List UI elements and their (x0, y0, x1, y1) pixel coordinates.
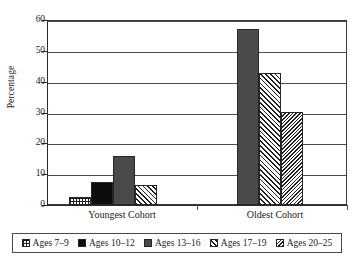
y-tick-label-20: 20 (5, 138, 45, 148)
legend-label-ages-20-25: Ages 20–25 (287, 238, 333, 248)
x-tick-major-mid (197, 205, 198, 210)
legend-label-ages-7-9: Ages 7–9 (33, 238, 69, 248)
bars-layer (47, 20, 347, 205)
y-tick-label-10: 10 (5, 169, 45, 179)
bar-youngest-ages-7-9 (69, 197, 91, 205)
bar-chart: 60 50 40 30 20 10 0 Percentage Youngest … (0, 0, 354, 267)
x-category-label-youngest-cohort: Youngest Cohort (62, 209, 182, 220)
legend-label-ages-10-12: Ages 10–12 (89, 238, 135, 248)
y-axis-line (47, 20, 48, 206)
y-tick-label-60: 60 (5, 15, 45, 25)
legend: Ages 7–9 Ages 10–12 Ages 13–16 Ages 17–1… (12, 233, 342, 253)
legend-item-ages-7-9: Ages 7–9 (22, 238, 69, 248)
bar-oldest-ages-20-25 (281, 112, 303, 205)
bar-oldest-ages-13-16 (237, 29, 259, 205)
legend-item-ages-13-16: Ages 13–16 (144, 238, 201, 248)
x-tick-major-right (347, 205, 348, 210)
bar-youngest-ages-13-16 (113, 156, 135, 205)
y-tick-label-0: 0 (5, 200, 45, 210)
x-category-label-oldest-cohort: Oldest Cohort (215, 209, 335, 220)
y-axis-title: Percentage (6, 52, 16, 122)
bar-youngest-ages-10-12 (91, 182, 113, 205)
legend-swatch-dense-hatch-icon (276, 239, 284, 247)
legend-label-ages-17-19: Ages 17–19 (221, 238, 267, 248)
legend-swatch-diagonal-hatch-icon (210, 239, 218, 247)
legend-swatch-stipple-icon (144, 239, 152, 247)
legend-item-ages-10-12: Ages 10–12 (78, 238, 135, 248)
legend-swatch-solid-icon (78, 239, 86, 247)
legend-item-ages-17-19: Ages 17–19 (210, 238, 267, 248)
bar-youngest-ages-17-19 (135, 185, 157, 205)
legend-item-ages-20-25: Ages 20–25 (276, 238, 333, 248)
bar-oldest-ages-17-19 (259, 73, 281, 205)
y-tick-labels: 60 50 40 30 20 10 0 (0, 0, 45, 267)
legend-swatch-grid-icon (22, 239, 30, 247)
legend-label-ages-13-16: Ages 13–16 (155, 238, 201, 248)
